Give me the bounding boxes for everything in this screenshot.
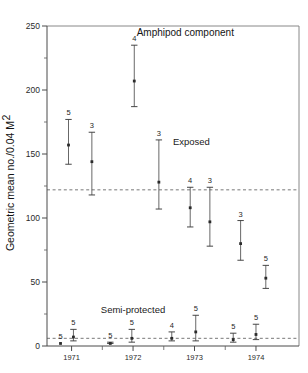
- data-marker: [208, 220, 211, 223]
- data-marker: [189, 206, 192, 209]
- data-point-exposed: 4: [187, 176, 193, 227]
- data-point-exposed: 5: [65, 108, 71, 164]
- data-point-semi-protected: 5: [193, 304, 199, 341]
- data-marker: [264, 277, 267, 280]
- data-marker: [239, 242, 242, 245]
- data-marker: [59, 342, 62, 345]
- chart-title: Amphipod component: [137, 27, 235, 38]
- y-axis-title-exponent: 2: [0, 114, 12, 120]
- sample-size-label: 5: [264, 254, 268, 263]
- x-tick-label-1973: 1973: [186, 353, 203, 362]
- data-marker: [133, 80, 136, 83]
- sample-size-label: 5: [58, 332, 62, 341]
- data-marker: [90, 160, 93, 163]
- data-marker: [170, 337, 173, 340]
- data-point-exposed: 4: [131, 34, 137, 106]
- sample-size-label: 4: [170, 321, 174, 330]
- sample-size-label: 3: [157, 129, 161, 138]
- y-axis-title-text: Geometric mean no./0.04 M: [4, 121, 16, 251]
- sample-size-label: 5: [254, 313, 258, 322]
- data-marker: [72, 336, 75, 339]
- sample-size-label: 5: [108, 331, 112, 340]
- sample-size-label: 5: [71, 318, 75, 327]
- x-tick-label-1974: 1974: [248, 353, 265, 362]
- data-point-exposed: 3: [156, 129, 162, 209]
- chart-figure: 0501001502002501971197219731974534343355…: [0, 0, 308, 373]
- y-tick-label-200: 200: [26, 85, 40, 95]
- y-tick-label-100: 100: [26, 213, 40, 223]
- data-point-exposed: 3: [207, 176, 213, 246]
- sample-size-label: 5: [231, 322, 235, 331]
- sample-size-label: 3: [239, 210, 243, 219]
- y-tick-label-150: 150: [26, 149, 40, 159]
- x-tick-label-1971: 1971: [63, 353, 80, 362]
- plot-frame: [47, 26, 299, 346]
- scatter-plot-svg: 0501001502002501971197219731974534343355…: [0, 0, 308, 373]
- data-point-semi-protected: 5: [253, 313, 259, 339]
- semi-protected-label: Semi-protected: [101, 304, 165, 315]
- sample-size-label: 4: [188, 176, 192, 185]
- sample-size-label: 5: [194, 304, 198, 313]
- sample-size-label: 5: [130, 318, 134, 327]
- exposed-label: Exposed: [173, 136, 210, 147]
- data-point-semi-protected: 4: [169, 321, 175, 341]
- data-marker: [67, 144, 70, 147]
- data-point-semi-protected: 5: [107, 331, 113, 345]
- data-marker: [194, 331, 197, 334]
- data-point-semi-protected: 5: [58, 332, 62, 344]
- data-point-semi-protected: 5: [70, 318, 76, 341]
- y-tick-label-50: 50: [31, 277, 41, 287]
- data-point-semi-protected: 5: [230, 322, 236, 342]
- data-point-exposed: 3: [89, 121, 95, 195]
- data-marker: [157, 181, 160, 184]
- y-tick-label-0: 0: [35, 341, 40, 351]
- data-point-exposed: 3: [237, 210, 243, 261]
- y-axis-title: Geometric mean no./0.04 M2: [0, 114, 16, 251]
- data-marker: [130, 337, 133, 340]
- y-tick-label-250: 250: [26, 21, 40, 31]
- data-point-semi-protected: 5: [129, 318, 135, 342]
- sample-size-label: 3: [90, 121, 94, 130]
- data-marker: [255, 333, 258, 336]
- sample-size-label: 5: [66, 108, 70, 117]
- x-tick-label-1972: 1972: [125, 353, 142, 362]
- data-point-exposed: 5: [263, 254, 269, 288]
- data-marker: [109, 342, 112, 345]
- sample-size-label: 3: [208, 176, 212, 185]
- data-marker: [232, 338, 235, 341]
